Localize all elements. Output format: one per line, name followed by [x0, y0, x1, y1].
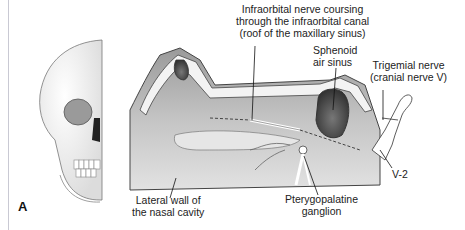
nasal-cavity-section — [130, 48, 380, 190]
anatomical-figure: Infraorbital nerve coursing through the … — [0, 0, 465, 230]
label-trigemial-nerve: Trigemial nerve (cranial nerve V) — [370, 59, 447, 83]
label-pterygopalatine-ganglion: Pterygopalatine ganglion — [285, 193, 358, 217]
panel-label: A — [18, 199, 27, 214]
label-infraorbital-nerve: Infraorbital nerve coursing through the … — [236, 3, 369, 39]
label-lateral-wall: Lateral wall of the nasal cavity — [132, 194, 204, 218]
label-sphenoid-air-sinus: Sphenoid air sinus — [313, 44, 357, 68]
illustration-canvas — [0, 0, 465, 230]
skull-illustration — [40, 40, 102, 202]
label-v2: V-2 — [392, 168, 408, 180]
